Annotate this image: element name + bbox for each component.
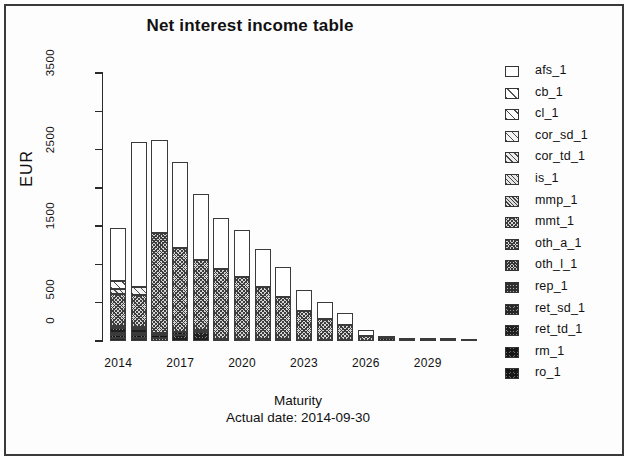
- bar-segment: [172, 332, 188, 335]
- bar-2019[interactable]: [213, 218, 229, 341]
- bar-segment: [399, 338, 415, 340]
- bar-2021[interactable]: [255, 249, 271, 341]
- y-axis-tick-label: 1500: [44, 202, 56, 229]
- bar-segment: [234, 277, 250, 339]
- bar-segment: [255, 249, 271, 287]
- bar-segment: [110, 294, 126, 326]
- bar-segment: [172, 162, 188, 248]
- bar-2029[interactable]: [420, 340, 436, 341]
- bar-segment: [358, 330, 374, 335]
- legend-swatch-icon: [505, 131, 519, 142]
- bar-2020[interactable]: [234, 230, 250, 341]
- bar-segment: [234, 230, 250, 277]
- legend-item-ro_1[interactable]: ro_1: [505, 364, 625, 386]
- bar-segment: [296, 311, 312, 340]
- legend-item-cor_td_1[interactable]: cor_td_1: [505, 148, 625, 170]
- bar-segment: [110, 326, 126, 329]
- legend-item-cl_1[interactable]: cl_1: [505, 105, 625, 127]
- legend-label: rm_1: [535, 344, 564, 358]
- legend-swatch-icon: [505, 239, 519, 250]
- y-axis-tick: [95, 187, 103, 188]
- bar-2018[interactable]: [193, 194, 209, 341]
- x-axis-tick-label: 2017: [150, 356, 210, 370]
- legend-item-ret_td_1[interactable]: ret_td_1: [505, 321, 625, 343]
- bar-segment: [131, 333, 147, 335]
- bar-segment: [151, 333, 167, 335]
- bar-segment: [255, 339, 271, 341]
- legend-label: cl_1: [535, 106, 559, 120]
- legend-item-ret_sd_1[interactable]: ret_sd_1: [505, 300, 625, 322]
- bar-2024[interactable]: [317, 302, 333, 341]
- legend-item-cb_1[interactable]: cb_1: [505, 84, 625, 106]
- bar-segment: [317, 302, 333, 319]
- bar-segment: [213, 339, 229, 341]
- legend-item-afs_1[interactable]: afs_1: [505, 62, 625, 84]
- bar-segment: [131, 295, 147, 327]
- legend-swatch-icon: [505, 66, 519, 77]
- bar-2027[interactable]: [378, 337, 394, 341]
- bar-2015[interactable]: [131, 142, 147, 341]
- bar-segment: [234, 339, 250, 341]
- legend-item-rm_1[interactable]: rm_1: [505, 343, 625, 365]
- y-axis-tick: [95, 302, 103, 303]
- bar-segment: [110, 328, 126, 332]
- bar-segment: [131, 142, 147, 287]
- legend-item-mmp_1[interactable]: mmp_1: [505, 192, 625, 214]
- bar-segment: [193, 332, 209, 341]
- x-axis-tick-label: 2023: [274, 356, 334, 370]
- bar-segment: [110, 289, 126, 294]
- bar-segment: [213, 218, 229, 269]
- bar-segment: [337, 313, 353, 325]
- bar-segment: [255, 287, 271, 339]
- y-axis-tick: [95, 111, 103, 112]
- legend-label: is_1: [535, 171, 559, 185]
- bar-segment: [110, 338, 126, 341]
- legend-label: mmt_1: [535, 214, 574, 228]
- bar-segment: [193, 330, 209, 332]
- bar-2026[interactable]: [358, 330, 374, 341]
- legend-label: afs_1: [535, 63, 567, 77]
- legend-swatch-icon: [505, 260, 519, 271]
- x-axis-tick-label: 2026: [336, 356, 396, 370]
- bar-segment: [110, 281, 126, 289]
- bar-2022[interactable]: [275, 267, 291, 341]
- bar-segment: [275, 267, 291, 298]
- y-axis-tick-label: 3500: [44, 49, 56, 76]
- y-axis-tick-label-wrap: 2500: [44, 126, 90, 174]
- legend-item-oth_a_1[interactable]: oth_a_1: [505, 235, 625, 257]
- legend-item-oth_l_1[interactable]: oth_l_1: [505, 256, 625, 278]
- legend-label: ro_1: [535, 365, 561, 379]
- legend-label: mmp_1: [535, 193, 578, 207]
- bar-segment: [337, 325, 353, 340]
- legend-item-rep_1[interactable]: rep_1: [505, 278, 625, 300]
- y-axis-tick-label-wrap: 500: [44, 279, 90, 327]
- chart-canvas: Net interest income table EUR 0500150025…: [0, 0, 632, 463]
- plot-area: [103, 60, 493, 342]
- bar-segment: [172, 248, 188, 333]
- legend-swatch-icon: [505, 325, 519, 336]
- y-axis-tick-label-wrap: 1500: [44, 202, 90, 250]
- bar-segment: [131, 287, 147, 295]
- bar-segment: [110, 228, 126, 282]
- y-axis-tick: [95, 264, 103, 265]
- x-axis-tick-label: 2020: [212, 356, 272, 370]
- legend-swatch-icon: [505, 368, 519, 379]
- y-axis-label: EUR: [18, 150, 36, 187]
- bar-2028[interactable]: [399, 339, 415, 341]
- x-axis-tick-label: 2014: [88, 356, 148, 370]
- bar-2017[interactable]: [172, 162, 188, 341]
- legend-item-is_1[interactable]: is_1: [505, 170, 625, 192]
- bar-2030[interactable]: [440, 340, 456, 341]
- legend-label: cb_1: [535, 85, 563, 99]
- bar-segment: [213, 269, 229, 339]
- bar-segment: [317, 319, 333, 340]
- legend-label: oth_a_1: [535, 236, 582, 250]
- bar-2023[interactable]: [296, 290, 312, 341]
- bar-2014[interactable]: [110, 228, 126, 341]
- bar-2025[interactable]: [337, 313, 353, 341]
- legend-item-cor_sd_1[interactable]: cor_sd_1: [505, 127, 625, 149]
- bar-segment: [461, 339, 477, 341]
- legend-swatch-icon: [505, 304, 519, 315]
- bar-2016[interactable]: [151, 140, 167, 341]
- legend-item-mmt_1[interactable]: mmt_1: [505, 213, 625, 235]
